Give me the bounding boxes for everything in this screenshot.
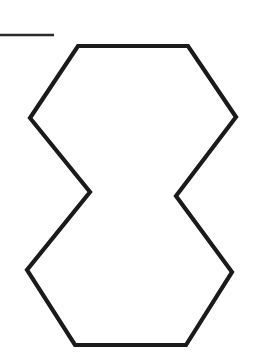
hexagonal-hourglass-outline	[27, 46, 236, 345]
figure-svg	[0, 0, 271, 356]
figure-canvas	[0, 0, 271, 356]
